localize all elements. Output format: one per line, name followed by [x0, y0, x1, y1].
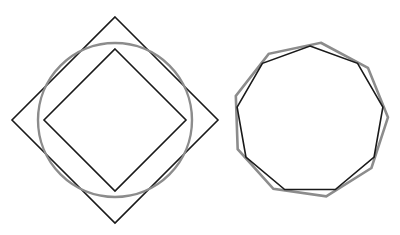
gray-nonagon	[236, 43, 388, 197]
left-figure-group	[12, 17, 218, 223]
geometry-figure	[0, 0, 400, 235]
inner-square-rotated	[44, 49, 186, 191]
right-figure-group	[236, 43, 388, 197]
inscribed-circle	[38, 43, 192, 197]
caption-text: bei eben nur die aus einbeschriebenem 4-…	[2, 0, 398, 3]
clipped-caption-strip: bei eben nur die aus einbeschriebenem 4-…	[0, 0, 400, 7]
